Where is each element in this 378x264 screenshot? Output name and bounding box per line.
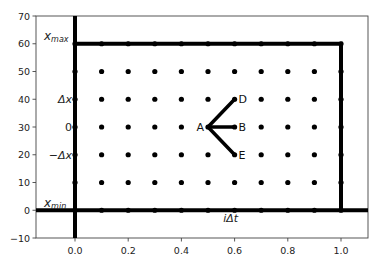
x-tick-label: 0.4 bbox=[174, 245, 189, 256]
stencil-edges: ABDE bbox=[196, 93, 247, 162]
grid-point bbox=[285, 180, 290, 185]
grid-point bbox=[205, 97, 210, 102]
grid-point bbox=[179, 152, 184, 157]
grid-point bbox=[285, 69, 290, 74]
grid-point bbox=[179, 180, 184, 185]
point-label-D: D bbox=[239, 93, 247, 106]
grid-point bbox=[285, 124, 290, 129]
y-tick-label: 60 bbox=[18, 38, 30, 49]
grid-point bbox=[312, 69, 317, 74]
stencil-edge-AE bbox=[208, 127, 235, 155]
grid-point bbox=[312, 124, 317, 129]
grid-point bbox=[205, 180, 210, 185]
grid-point bbox=[205, 152, 210, 157]
grid-point bbox=[179, 124, 184, 129]
grid-point bbox=[285, 97, 290, 102]
y-tick-label: 30 bbox=[18, 122, 30, 133]
grid-point bbox=[99, 180, 104, 185]
grid-point bbox=[285, 152, 290, 157]
grid-point bbox=[259, 97, 264, 102]
y-axis-ticks: −10010203040506070 bbox=[10, 11, 36, 244]
grid-point bbox=[152, 69, 157, 74]
grid-point bbox=[152, 97, 157, 102]
annotation-label: iΔt bbox=[223, 212, 239, 225]
grid-point bbox=[312, 152, 317, 157]
grid-point bbox=[99, 124, 104, 129]
grid-point bbox=[99, 152, 104, 157]
annotation-label: −Δx bbox=[49, 149, 73, 162]
x-tick-label: 0.8 bbox=[280, 245, 295, 256]
grid-point bbox=[126, 152, 131, 157]
grid-point bbox=[232, 180, 237, 185]
point-label-E: E bbox=[239, 149, 246, 162]
grid-point bbox=[126, 69, 131, 74]
x-tick-label: 0.2 bbox=[121, 245, 136, 256]
grid-point bbox=[126, 124, 131, 129]
annotation-x-max: xmax bbox=[43, 29, 69, 44]
y-tick-label: 10 bbox=[18, 177, 30, 188]
grid-point bbox=[99, 97, 104, 102]
grid-point bbox=[179, 69, 184, 74]
annotation-x-min: xmin bbox=[43, 196, 66, 211]
x-tick-label: 1.0 bbox=[333, 245, 348, 256]
grid-point bbox=[152, 180, 157, 185]
grid-point bbox=[152, 124, 157, 129]
y-tick-label: 0 bbox=[24, 205, 30, 216]
y-tick-label: 70 bbox=[18, 11, 30, 22]
grid-point bbox=[312, 97, 317, 102]
y-tick-label: −10 bbox=[10, 233, 30, 244]
y-tick-label: 50 bbox=[18, 66, 30, 77]
x-axis-ticks: 0.00.20.40.60.81.0 bbox=[67, 238, 348, 256]
grid-point bbox=[259, 124, 264, 129]
annotation-label: 0 bbox=[65, 121, 72, 134]
grid-point bbox=[259, 69, 264, 74]
stencil-edge-AD bbox=[208, 99, 235, 127]
y-tick-label: 40 bbox=[18, 94, 30, 105]
grid-point bbox=[99, 69, 104, 74]
point-label-A: A bbox=[196, 121, 204, 134]
y-tick-label: 20 bbox=[18, 149, 30, 160]
grid-point bbox=[152, 152, 157, 157]
annotation-label: Δx bbox=[57, 93, 73, 106]
grid-point bbox=[126, 180, 131, 185]
grid-point bbox=[232, 69, 237, 74]
grid-point bbox=[259, 152, 264, 157]
grid-point bbox=[205, 69, 210, 74]
point-label-B: B bbox=[239, 121, 247, 134]
x-tick-label: 0.6 bbox=[227, 245, 242, 256]
grid-point bbox=[312, 180, 317, 185]
grid-point bbox=[259, 180, 264, 185]
stencil-diagram: −10010203040506070 0.00.20.40.60.81.0 AB… bbox=[0, 0, 378, 264]
x-tick-label: 0.0 bbox=[67, 245, 82, 256]
grid-point bbox=[126, 97, 131, 102]
grid-point bbox=[179, 97, 184, 102]
